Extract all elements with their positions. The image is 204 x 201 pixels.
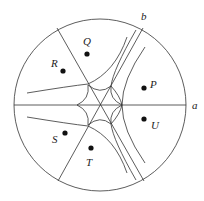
point-u-label: U [151,119,160,131]
point-r-dot [60,68,65,73]
point-q-dot [84,51,89,56]
point-s-dot [62,130,67,135]
diagram-canvas: QRPUST a b [0,0,204,201]
point-q-label: Q [83,35,91,47]
point-t-label: T [86,156,93,168]
axis-c-line [57,28,144,181]
point-t-dot [88,145,93,150]
point-u-dot [141,116,146,121]
point-p-label: P [149,78,157,90]
axis-b-label: b [141,10,147,22]
axis-a-label: a [192,99,198,111]
point-p-dot [141,85,146,90]
point-r-label: R [50,57,58,69]
point-s-label: S [52,133,58,145]
